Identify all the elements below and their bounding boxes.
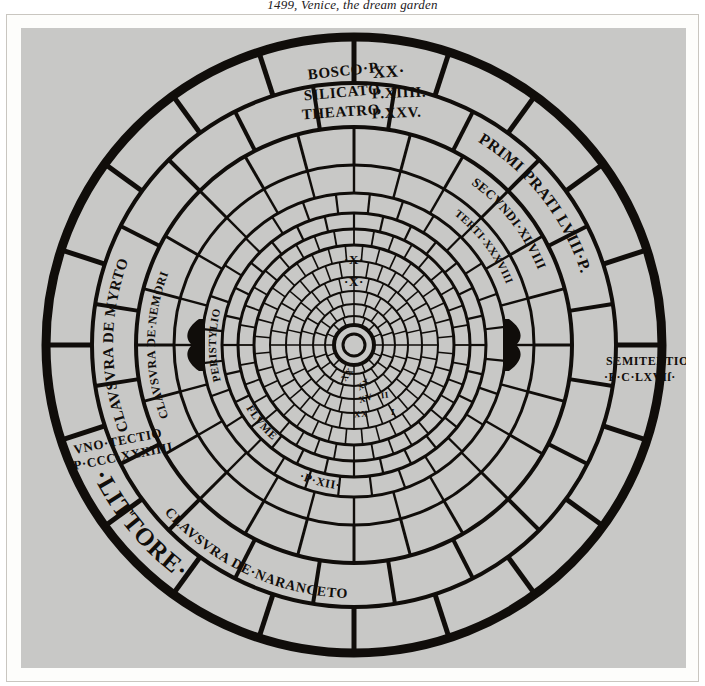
spoke-band5-0 bbox=[368, 194, 370, 214]
spoke-band8-25 bbox=[257, 367, 272, 371]
spoke-band11-2 bbox=[375, 298, 382, 309]
spoke-band5-26 bbox=[303, 202, 310, 221]
label-peristylio: PERISTYLIO bbox=[205, 307, 222, 384]
spoke-band5-17 bbox=[247, 439, 261, 453]
spoke-band12-12 bbox=[330, 368, 337, 378]
spoke-band6-12 bbox=[404, 450, 411, 464]
spoke-band8-15 bbox=[389, 421, 396, 436]
spoke-band5-12 bbox=[399, 469, 406, 488]
spoke-band11-3 bbox=[383, 307, 392, 316]
spoke-band5-16 bbox=[274, 457, 285, 474]
spoke-band9-4 bbox=[398, 281, 408, 293]
spoke-band7-7 bbox=[448, 305, 463, 310]
spoke-band9-25 bbox=[275, 368, 290, 373]
spoke-band10-8 bbox=[407, 357, 421, 360]
spoke-band5-24 bbox=[246, 238, 260, 252]
spoke-band6-6 bbox=[467, 316, 483, 320]
spoke-outer-16 bbox=[61, 250, 105, 264]
label-inner-i: I bbox=[391, 407, 395, 417]
spoke-band5-27 bbox=[336, 194, 338, 214]
spoke-band6-10 bbox=[445, 417, 458, 427]
spoke-band5-19 bbox=[211, 390, 230, 397]
engraving-plate: BOSCO·P.XX·SILICATOP.XIIII.THEATROP.XXV.… bbox=[6, 14, 699, 682]
spoke-band7-15 bbox=[404, 432, 412, 446]
spoke-band8-31 bbox=[283, 274, 294, 285]
spoke-band5-22 bbox=[210, 296, 229, 302]
spoke-band3-21 bbox=[200, 191, 227, 218]
spoke-band11-13 bbox=[340, 385, 343, 398]
spoke-band6-4 bbox=[445, 263, 458, 273]
spoke-band6-19 bbox=[235, 395, 249, 402]
spoke-band7-20 bbox=[314, 439, 319, 454]
label-inner-xv: XV bbox=[358, 391, 374, 405]
spoke-band6-16 bbox=[297, 450, 304, 464]
spoke-band9-8 bbox=[421, 330, 437, 333]
spoke-band2-7 bbox=[508, 499, 539, 530]
spoke-band5-8 bbox=[479, 388, 498, 394]
spoke-band8-33 bbox=[312, 254, 319, 269]
spoke-outer-1 bbox=[435, 52, 449, 96]
spoke-band9-32 bbox=[300, 281, 310, 293]
spoke-band11-1 bbox=[365, 293, 368, 306]
spoke-band4-17 bbox=[180, 384, 207, 391]
label-bosco: BOSCO·P. bbox=[307, 59, 382, 83]
label-silicato-value: P.XIIII. bbox=[372, 84, 427, 102]
spoke-band4-8 bbox=[486, 421, 510, 435]
spoke-band10-23 bbox=[293, 315, 306, 321]
spoke-band11-8 bbox=[390, 366, 401, 373]
spoke-band4-13 bbox=[307, 492, 314, 519]
spoke-band6-24 bbox=[251, 263, 264, 273]
spoke-band12-3 bbox=[377, 321, 387, 328]
spoke-band9-5 bbox=[406, 291, 418, 301]
spoke-outer-18 bbox=[173, 96, 200, 133]
spoke-band8-14 bbox=[402, 414, 411, 427]
spoke-band8-17 bbox=[361, 429, 362, 445]
spoke-band3-9 bbox=[481, 472, 508, 499]
spoke-band6-3 bbox=[426, 242, 436, 255]
spoke-band3-15 bbox=[200, 472, 227, 499]
spoke-band9-13 bbox=[406, 389, 418, 399]
spoke-band4-7 bbox=[501, 384, 528, 391]
spoke-band6-15 bbox=[325, 458, 329, 474]
spoke-band12-13 bbox=[321, 362, 331, 369]
spoke-band11-19 bbox=[302, 331, 315, 334]
spoke-band10-24 bbox=[301, 303, 312, 312]
spoke-band2-17 bbox=[169, 160, 200, 191]
spoke-band4-11 bbox=[393, 492, 400, 519]
spoke-band7-21 bbox=[296, 432, 304, 446]
spoke-band10-18 bbox=[301, 379, 312, 388]
spoke-band9-26 bbox=[271, 357, 287, 360]
spoke-band11-20 bbox=[307, 318, 318, 325]
spoke-band7-2 bbox=[388, 236, 393, 251]
spoke-band3-22 bbox=[245, 156, 264, 189]
label-inner-ii: II bbox=[380, 390, 390, 401]
spoke-band7-13 bbox=[431, 409, 443, 419]
spoke-band9-29 bbox=[275, 316, 290, 321]
spoke-band4-1 bbox=[393, 171, 400, 198]
label-x-outer: ·X· bbox=[344, 252, 364, 267]
spoke-hub-2 bbox=[368, 324, 374, 330]
spoke-band9-6 bbox=[413, 303, 427, 311]
spoke-band4-20 bbox=[198, 255, 222, 269]
spoke-band12-14 bbox=[315, 354, 326, 358]
spoke-band11-16 bbox=[307, 366, 318, 373]
spoke-band7-22 bbox=[279, 422, 289, 434]
spoke-band5-25 bbox=[272, 217, 283, 234]
diagram-geometry bbox=[46, 37, 662, 653]
spoke-band9-33 bbox=[312, 272, 320, 286]
spoke-band3-11 bbox=[401, 519, 411, 556]
spoke-band10-15 bbox=[339, 398, 342, 412]
spoke-band3-5 bbox=[528, 289, 565, 299]
spoke-band6-25 bbox=[272, 242, 282, 255]
spoke-band6-13 bbox=[380, 458, 384, 474]
spoke-hub-10 bbox=[333, 359, 339, 365]
spoke-band8-8 bbox=[438, 336, 454, 337]
spoke-band4-21 bbox=[227, 218, 247, 238]
spoke-band9-34 bbox=[325, 266, 330, 281]
spoke-band10-27 bbox=[339, 279, 342, 293]
spoke-band8-5 bbox=[423, 288, 436, 297]
engraving-image: BOSCO·P.XX·SILICATOP.XIIII.THEATROP.XXV.… bbox=[21, 28, 686, 668]
spoke-band8-7 bbox=[435, 319, 450, 323]
label-inner-xx-a: XX bbox=[339, 366, 356, 383]
spoke-band5-7 bbox=[485, 359, 505, 361]
